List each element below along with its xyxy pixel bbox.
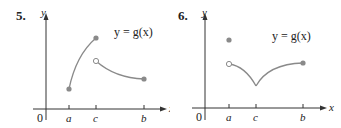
x-axis-arrow-icon bbox=[320, 106, 327, 111]
figure-6: 6. y x 0 a c b y = g(x) bbox=[170, 0, 341, 128]
tick-label-b: b bbox=[141, 112, 147, 124]
origin-label: 0 bbox=[37, 111, 43, 125]
closed-point-b bbox=[300, 60, 305, 65]
equation-label: y = g(x) bbox=[114, 25, 153, 39]
tick-label-c: c bbox=[93, 112, 98, 124]
figure-5: 5. y x 0 a c b y = g(x) bbox=[0, 0, 170, 128]
closed-point-b bbox=[141, 76, 146, 81]
tick-label-c: c bbox=[253, 111, 258, 123]
equation-label: y = g(x) bbox=[272, 29, 311, 43]
curve-right bbox=[96, 61, 144, 79]
curve-right bbox=[256, 63, 303, 86]
graph-6: y x 0 a c b y = g(x) bbox=[170, 0, 341, 128]
open-point-a bbox=[226, 61, 231, 66]
closed-point-a bbox=[226, 37, 231, 42]
x-axis-label: x bbox=[328, 101, 334, 113]
tick-label-a: a bbox=[226, 111, 232, 123]
open-point-c bbox=[93, 58, 98, 63]
curve-left bbox=[69, 38, 96, 89]
origin-label: 0 bbox=[196, 110, 202, 124]
graph-5: y x 0 a c b y = g(x) bbox=[0, 0, 170, 128]
curve-left bbox=[229, 64, 256, 86]
closed-point-c bbox=[93, 35, 98, 40]
tick-label-b: b bbox=[300, 111, 306, 123]
tick-label-a: a bbox=[66, 112, 72, 124]
y-axis-label: y bbox=[201, 6, 207, 18]
x-axis-arrow-icon bbox=[160, 107, 167, 112]
closed-point-a bbox=[66, 86, 71, 91]
y-axis-label: y bbox=[40, 6, 46, 18]
